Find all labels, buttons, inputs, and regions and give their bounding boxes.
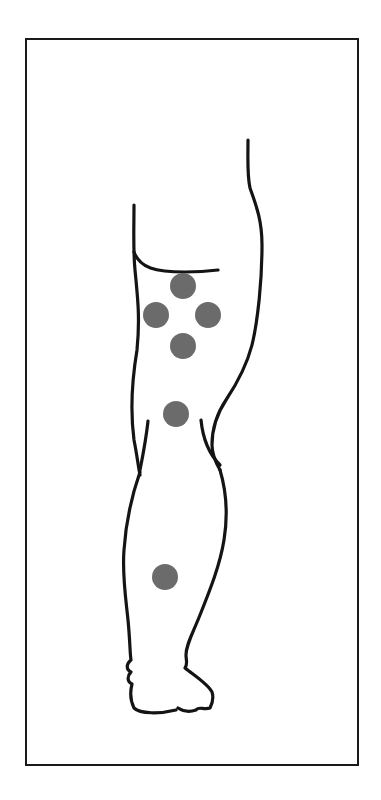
marker-dot	[170, 333, 196, 359]
marker-dot	[152, 564, 178, 590]
knee-crease-left	[140, 421, 148, 470]
marker-dot	[195, 302, 221, 328]
thigh-right-outline	[212, 140, 262, 470]
marker-dot	[143, 302, 169, 328]
marker-dot	[170, 273, 196, 299]
marker-dot	[163, 401, 189, 427]
hip-line	[134, 252, 218, 272]
thigh-left-outline	[132, 205, 140, 475]
leg-diagram	[0, 0, 381, 800]
calf-left-outline	[123, 472, 176, 713]
calf-right-outline	[178, 470, 226, 711]
